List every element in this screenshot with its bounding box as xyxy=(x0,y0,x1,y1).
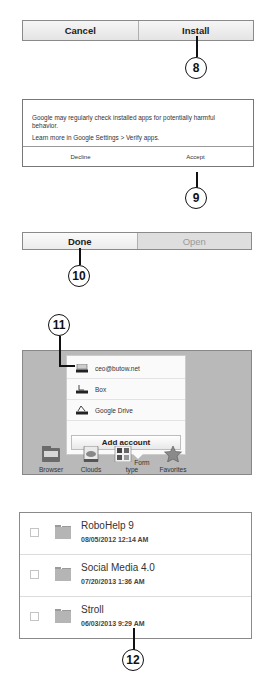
open-button[interactable]: Open xyxy=(137,233,252,249)
done-open-bar: Done Open xyxy=(22,232,252,250)
toolbar-clouds[interactable]: Clouds xyxy=(71,446,111,473)
callout-line-11 xyxy=(59,336,61,366)
item-date: 07/20/2013 1:36 AM xyxy=(81,578,145,585)
clouds-panel: ceo@butow.net Box Google Drive Add accou… xyxy=(22,350,252,475)
accept-button[interactable]: Accept xyxy=(138,147,253,166)
decline-button[interactable]: Decline xyxy=(23,147,138,166)
item-name: Stroll xyxy=(81,604,104,615)
callout-11: 11 xyxy=(48,314,70,336)
callout-line-8 xyxy=(196,36,198,57)
toolbar-label: Clouds xyxy=(81,466,102,473)
form-type-icon xyxy=(114,446,132,462)
callout-9: 9 xyxy=(185,187,207,209)
account-label: ceo@butow.net xyxy=(95,365,140,372)
list-item[interactable]: RoboHelp 9 08/05/2012 12:14 AM xyxy=(20,513,251,555)
callout-8: 8 xyxy=(185,57,207,79)
google-drive-icon xyxy=(76,406,88,415)
folder-icon xyxy=(55,567,71,581)
item-checkbox[interactable] xyxy=(30,570,39,579)
browser-icon xyxy=(42,446,60,462)
callout-line-11-h xyxy=(59,365,75,367)
toolbar-favorites[interactable]: Favorites xyxy=(153,446,193,473)
file-list: RoboHelp 9 08/05/2012 12:14 AM Social Me… xyxy=(19,512,252,639)
folder-icon xyxy=(55,525,71,539)
item-checkbox[interactable] xyxy=(30,528,39,537)
toolbar-browser[interactable]: Browser xyxy=(31,446,71,473)
toolbar-form-type[interactable]: Form type xyxy=(112,446,152,473)
callout-line-9 xyxy=(196,172,198,188)
dialog-actions: Decline Accept xyxy=(23,146,253,166)
account-label: Box xyxy=(95,386,106,393)
list-item[interactable]: Social Media 4.0 07/20/2013 1:36 AM xyxy=(20,555,251,597)
cloud-accounts-popup: ceo@butow.net Box Google Drive Add accou… xyxy=(66,355,186,455)
account-label: Google Drive xyxy=(95,407,133,414)
done-button[interactable]: Done xyxy=(23,233,137,249)
callout-line-10 xyxy=(79,248,81,265)
callout-10: 10 xyxy=(68,265,90,287)
account-item-ceo[interactable]: ceo@butow.net xyxy=(67,358,185,379)
list-item[interactable]: Stroll 06/03/2013 9:29 AM xyxy=(20,597,251,639)
item-checkbox[interactable] xyxy=(30,612,39,621)
account-item-google-drive[interactable]: Google Drive xyxy=(67,400,185,421)
item-date: 06/03/2013 9:29 AM xyxy=(81,620,145,627)
item-date: 08/05/2012 12:14 AM xyxy=(81,536,148,543)
dialog-message: Google may regularly check installed app… xyxy=(32,114,242,130)
favorites-star-icon xyxy=(164,446,182,462)
item-name: RoboHelp 9 xyxy=(81,520,134,531)
box-icon xyxy=(76,385,88,394)
toolbar-label: Favorites xyxy=(159,466,186,473)
cancel-button[interactable]: Cancel xyxy=(23,21,138,40)
toolbar-label: Browser xyxy=(39,466,63,473)
folder-icon xyxy=(55,609,71,623)
item-name: Social Media 4.0 xyxy=(81,562,155,573)
account-item-box[interactable]: Box xyxy=(67,379,185,400)
verify-apps-dialog: Google may regularly check installed app… xyxy=(22,99,254,167)
callout-line-12 xyxy=(133,628,135,650)
clouds-icon xyxy=(82,446,100,462)
install-button-bar: Cancel Install xyxy=(22,20,254,41)
callout-12: 12 xyxy=(122,649,144,671)
dialog-learn-more: Learn more in Google Settings > Verify a… xyxy=(32,134,159,141)
account-icon xyxy=(76,364,88,373)
